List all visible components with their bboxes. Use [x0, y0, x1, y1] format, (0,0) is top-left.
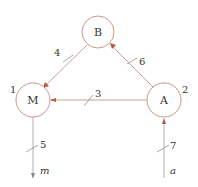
node-B: B: [82, 16, 114, 48]
edge-6-line: [111, 45, 153, 87]
arrowhead-icon: [31, 173, 35, 179]
edge-3-label: 3: [95, 88, 101, 99]
edge-7: 7 a: [157, 118, 176, 178]
terminal-m-label: m: [40, 165, 49, 176]
edge-5: 5 m: [26, 117, 49, 179]
node-A-number: 2: [182, 84, 188, 95]
edge-4: 4: [43, 45, 87, 88]
edge-7-label: 7: [170, 140, 176, 151]
edge-4-tick: [63, 55, 73, 62]
node-A-label: A: [159, 94, 169, 107]
edge-6-label: 6: [139, 56, 145, 67]
node-A: A 2: [147, 83, 188, 117]
node-M-number: 1: [10, 84, 16, 95]
edge-6-tick: [127, 58, 137, 64]
edge-6: 6: [110, 43, 153, 87]
edge-3-tick: [84, 95, 93, 106]
node-B-label: B: [94, 26, 102, 39]
node-M: M 1: [10, 83, 50, 117]
arrowhead-icon: [50, 98, 56, 102]
arrowhead-icon: [162, 118, 166, 124]
edge-5-tick: [26, 145, 38, 152]
node-M-label: M: [27, 94, 38, 107]
edge-4-label: 4: [54, 47, 60, 58]
edge-4-line: [45, 45, 87, 86]
diagram-canvas: 4 6 3 5 m 7 a B M 1: [0, 0, 198, 187]
edge-5-label: 5: [40, 139, 46, 150]
edge-3: 3: [50, 88, 147, 106]
terminal-a-label: a: [170, 165, 176, 176]
edge-7-tick: [157, 145, 169, 152]
arrowhead-icon: [110, 43, 116, 49]
